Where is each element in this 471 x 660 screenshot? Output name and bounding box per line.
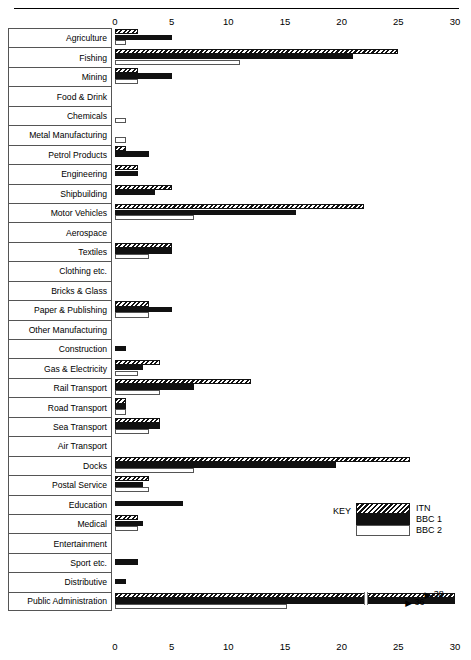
- bar-bbc-2: [115, 254, 149, 259]
- bar-bbc-1: [115, 307, 172, 312]
- bar-bbc-1: [115, 559, 138, 564]
- bar-row: [115, 358, 455, 377]
- bar-bbc-2: [115, 215, 194, 220]
- value-annotation-38: ▶ 38: [424, 589, 443, 599]
- category-label: Aerospace: [8, 222, 112, 241]
- category-label: Textiles: [8, 242, 112, 261]
- category-label: Gas & Electricity: [8, 358, 112, 377]
- bar-bbc-2: [115, 604, 287, 609]
- bar-itn: [115, 29, 138, 34]
- x-tick-10: 10: [223, 641, 234, 652]
- category-label: Medical: [8, 514, 112, 533]
- bar-row: [115, 572, 455, 591]
- bar-bbc-1: [115, 384, 194, 389]
- category-label: Metal Manufacturing: [8, 125, 112, 144]
- bar-row: [115, 184, 455, 203]
- bar-row: [115, 475, 455, 494]
- bar-row: [115, 203, 455, 222]
- bar-row: [115, 125, 455, 144]
- value-annotation-36: ▶ 36: [405, 597, 424, 607]
- bar-row: [115, 397, 455, 416]
- category-label: Clothing etc.: [8, 261, 112, 280]
- category-label: Bricks & Glass: [8, 281, 112, 300]
- category-label: Fishing: [8, 47, 112, 66]
- bar-bbc-1: [115, 404, 126, 409]
- bar-bbc-1: [115, 501, 183, 506]
- bar-row: [115, 242, 455, 261]
- bar-row: [115, 300, 455, 319]
- bar-itn: [115, 49, 398, 54]
- bar-itn: [115, 165, 138, 170]
- x-tick-20: 20: [336, 641, 347, 652]
- bar-itn: [115, 360, 160, 365]
- bar-row: [115, 164, 455, 183]
- bar-row: [115, 145, 455, 164]
- bar-row: [115, 533, 455, 552]
- bar-row: [115, 320, 455, 339]
- bar-bbc-2: [115, 468, 194, 473]
- bar-bbc-2: [115, 40, 126, 45]
- category-label: Distributive: [8, 572, 112, 591]
- bar-row: [115, 67, 455, 86]
- bar-row: [115, 28, 455, 47]
- bar-bbc-2: [115, 429, 149, 434]
- bar-itn: [115, 418, 160, 423]
- legend-swatch-bbc1: [356, 514, 410, 525]
- bar-bbc-1: [115, 462, 336, 467]
- bar-bbc-1: [115, 579, 126, 584]
- axis-break-mark: [364, 597, 367, 604]
- bar-bbc-1: [115, 365, 143, 370]
- bar-bbc-2: [115, 137, 126, 142]
- bar-itn: [115, 398, 126, 403]
- bar-itn: [115, 476, 149, 481]
- x-tick-5: 5: [169, 16, 174, 27]
- x-tick-15: 15: [280, 16, 291, 27]
- bar-chart: 051015202530 AgricultureFishingMiningFoo…: [0, 0, 471, 660]
- x-tick-5: 5: [169, 641, 174, 652]
- category-label: Sea Transport: [8, 417, 112, 436]
- bar-bbc-1: [115, 151, 149, 156]
- category-label: Rail Transport: [8, 378, 112, 397]
- bar-bbc-1: [115, 171, 138, 176]
- legend-swatch-itn: [356, 503, 410, 514]
- bar-bbc-1: [115, 73, 172, 78]
- category-label: Air Transport: [8, 436, 112, 455]
- x-tick-10: 10: [223, 16, 234, 27]
- bar-row: [115, 417, 455, 436]
- bar-bbc-2: [115, 79, 138, 84]
- category-label: Sport etc.: [8, 553, 112, 572]
- legend: KEY ITN BBC 1 BBC 2: [333, 503, 442, 536]
- bar-bbc-2: [115, 409, 126, 414]
- x-tick-25: 25: [393, 16, 404, 27]
- category-label: Petrol Products: [8, 145, 112, 164]
- bar-bbc-2: [115, 118, 126, 123]
- bar-bbc-2: [115, 487, 149, 492]
- legend-labels: ITN BBC 1 BBC 2: [416, 503, 442, 536]
- x-axis-bottom: 051015202530: [0, 641, 471, 655]
- bar-bbc-1: [115, 210, 296, 215]
- bar-bbc-1: [115, 482, 143, 487]
- category-label: Other Manufacturing: [8, 320, 112, 339]
- bar-bbc-2: [115, 390, 160, 395]
- x-tick-25: 25: [393, 641, 404, 652]
- category-label: Engineering: [8, 164, 112, 183]
- x-tick-15: 15: [280, 641, 291, 652]
- bar-itn: [115, 379, 251, 384]
- legend-key-label: KEY: [333, 503, 351, 516]
- bar-row: [115, 106, 455, 125]
- bar-itn: [115, 243, 172, 248]
- annotation-label: 36: [412, 597, 425, 607]
- category-label: Docks: [8, 456, 112, 475]
- bar-row: [115, 436, 455, 455]
- bar-bbc-2: [115, 312, 149, 317]
- x-tick-20: 20: [336, 16, 347, 27]
- bar-bbc-1: [115, 248, 172, 253]
- bar-bbc-1: [115, 54, 353, 59]
- bar-itn: [115, 204, 364, 209]
- category-label: Shipbuilding: [8, 184, 112, 203]
- bar-itn: [115, 185, 172, 190]
- bar-bbc-1: [115, 598, 455, 603]
- x-tick-30: 30: [450, 641, 461, 652]
- x-tick-30: 30: [450, 16, 461, 27]
- category-label: Agriculture: [8, 28, 112, 47]
